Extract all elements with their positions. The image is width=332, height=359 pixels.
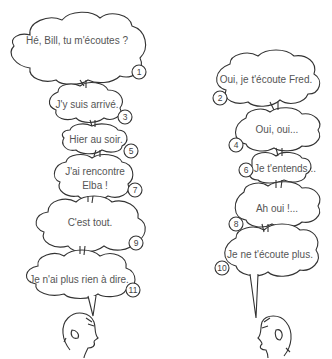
bubble-6-text: Je t'entends... (254, 162, 312, 176)
bubble-9-text: C'est tout. (40, 216, 140, 230)
number-label-8: 8 (228, 216, 244, 232)
number-label-9: 9 (128, 235, 144, 251)
number-label-3: 3 (117, 109, 133, 125)
number-label-10: 10 (214, 260, 230, 276)
number-label-7: 7 (127, 182, 143, 198)
bubble-11-pointer (88, 296, 96, 316)
bubble-2-text: Oui, je t'écoute Fred. (216, 73, 316, 87)
bubble-7-text-line2: Elba ! (58, 179, 132, 193)
bubble-10-text: Je ne t'écoute plus. (224, 248, 316, 262)
number-label-11: 11 (125, 282, 141, 298)
bubble-1-text: Hé, Bill, tu m'écoutes ? (18, 34, 136, 48)
bubble-4-text: Oui, oui... (238, 123, 316, 137)
bubble-10-pointer (250, 274, 258, 318)
number-label-1: 1 (131, 64, 147, 80)
right-head-icon (258, 316, 291, 358)
bubble-11-text: Je n'ai plus rien à dire. (26, 273, 132, 287)
number-label-5: 5 (123, 143, 139, 159)
bubble-8-text: Ah oui !... (238, 202, 316, 216)
cloud-bubble-1 (11, 12, 145, 84)
number-label-4: 4 (228, 137, 244, 153)
number-label-6: 6 (238, 162, 254, 178)
number-label-2: 2 (212, 90, 228, 106)
bubble-7-text-line1: J'ai rencontre (58, 165, 132, 179)
bubble-3-text: J'y suis arrivé. (52, 98, 122, 112)
dialogue-illustration (0, 0, 332, 359)
bubble-5-text: Hier au soir. (66, 133, 126, 147)
left-head-icon (63, 313, 98, 358)
